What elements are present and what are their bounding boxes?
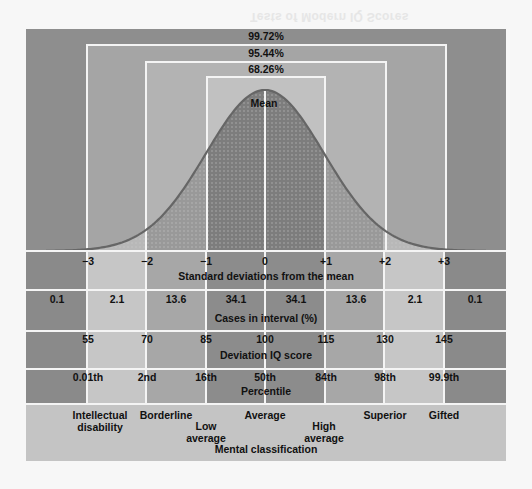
percentile-tick: 0.01th bbox=[73, 371, 103, 383]
classification-row-title: Mental classification bbox=[215, 443, 318, 455]
sd-tick: 0 bbox=[262, 255, 268, 267]
iq-row-title: Deviation IQ score bbox=[220, 349, 312, 361]
sd-tick: −3 bbox=[82, 255, 94, 267]
classification-line: disability bbox=[73, 421, 128, 433]
sd-row-title: Standard deviations from the mean bbox=[178, 270, 354, 282]
cases-value: 34.1 bbox=[226, 293, 246, 305]
classification-line: High bbox=[304, 420, 344, 432]
sd-tick: +1 bbox=[320, 255, 332, 267]
classification-low-average: Low average bbox=[186, 420, 226, 444]
iq-tick: 85 bbox=[200, 333, 212, 345]
classification-line: Borderline bbox=[140, 409, 193, 421]
percentile-tick: 2nd bbox=[138, 371, 157, 383]
classification-line: Low bbox=[186, 420, 226, 432]
cases-value: 0.1 bbox=[50, 293, 65, 305]
percentile-tick: 98th bbox=[374, 371, 396, 383]
coverage-95-44-label: 95.44% bbox=[236, 47, 296, 59]
coverage-99-72-label: 99.72% bbox=[236, 30, 296, 42]
cases-value: 2.1 bbox=[408, 293, 423, 305]
cases-value: 0.1 bbox=[468, 293, 483, 305]
cases-value: 34.1 bbox=[286, 293, 306, 305]
sd-tick: −2 bbox=[141, 255, 153, 267]
classification-gifted: Gifted bbox=[429, 409, 459, 421]
iq-tick: 55 bbox=[82, 333, 94, 345]
sd-tick: +3 bbox=[438, 255, 450, 267]
iq-normal-distribution-chart: 99.72% 95.44% 68.26% Mean −3 −2 −1 0 +1 … bbox=[26, 29, 506, 461]
mean-label: Mean bbox=[238, 97, 290, 109]
percentile-tick: 16th bbox=[195, 371, 217, 383]
classification-line: Superior bbox=[363, 409, 406, 421]
sd-tick: −1 bbox=[200, 255, 212, 267]
classification-line: Average bbox=[244, 409, 285, 421]
classification-line: Gifted bbox=[429, 409, 459, 421]
classification-intellectual-disability: Intellectual disability bbox=[73, 409, 128, 433]
sd-tick: +2 bbox=[379, 255, 391, 267]
classification-average: Average bbox=[244, 409, 285, 421]
classification-high-average: High average bbox=[304, 420, 344, 444]
ghost-header-text: Tests of Modern IQ Scores bbox=[250, 10, 409, 24]
iq-tick: 145 bbox=[435, 333, 453, 345]
iq-tick: 130 bbox=[376, 333, 394, 345]
cases-row-title: Cases in interval (%) bbox=[215, 312, 318, 324]
percentile-tick: 50th bbox=[254, 371, 276, 383]
cases-value: 13.6 bbox=[166, 293, 186, 305]
percentile-row-title: Percentile bbox=[241, 385, 291, 397]
coverage-68-26-label: 68.26% bbox=[236, 63, 296, 75]
iq-tick: 115 bbox=[318, 333, 335, 345]
classification-superior: Superior bbox=[363, 409, 406, 421]
cases-value: 2.1 bbox=[110, 293, 125, 305]
classification-line: Intellectual bbox=[73, 409, 128, 421]
iq-tick: 100 bbox=[256, 333, 274, 345]
percentile-tick: 99.9th bbox=[429, 371, 459, 383]
percentile-tick: 84th bbox=[315, 371, 337, 383]
classification-borderline: Borderline bbox=[140, 409, 193, 421]
iq-tick: 70 bbox=[141, 333, 153, 345]
cases-value: 13.6 bbox=[346, 293, 366, 305]
